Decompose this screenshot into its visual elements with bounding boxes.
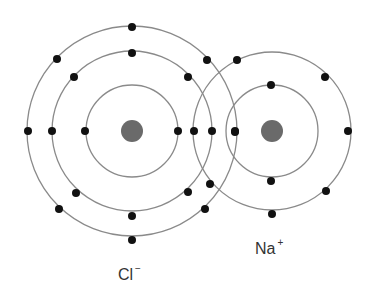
ionic-bond-diagram xyxy=(0,0,376,286)
cl-electron xyxy=(128,212,136,220)
cl-electron xyxy=(48,127,56,135)
cl-electron xyxy=(128,236,136,244)
cl-electron xyxy=(53,55,61,63)
cl-electron xyxy=(55,205,63,213)
cl-electron xyxy=(174,127,182,135)
na-electron xyxy=(190,127,198,135)
chloride-charge: − xyxy=(135,263,141,274)
na-nucleus xyxy=(261,120,283,142)
na-electron xyxy=(231,128,239,136)
na-electron xyxy=(267,81,275,89)
na-electron xyxy=(268,210,276,218)
na-electron xyxy=(267,177,275,185)
na-electron xyxy=(233,56,241,64)
cl-electron xyxy=(203,56,211,64)
chloride-symbol: Cl xyxy=(118,266,133,283)
cl-electron xyxy=(128,49,136,57)
cl-electron xyxy=(128,23,136,31)
sodium-ion-label: Na+ xyxy=(255,240,283,257)
na-electron xyxy=(206,180,214,188)
na-electron xyxy=(322,187,330,195)
cl-electron xyxy=(201,205,209,213)
cl-electron xyxy=(208,127,216,135)
na-electron xyxy=(344,127,352,135)
cl-electron xyxy=(72,189,80,197)
cl-electron xyxy=(184,188,192,196)
sodium-symbol: Na xyxy=(255,240,275,257)
cl-electron xyxy=(184,73,192,81)
sodium-charge: + xyxy=(277,237,283,248)
na-electron xyxy=(321,73,329,81)
cl-electron xyxy=(81,127,89,135)
cl-electron xyxy=(24,127,32,135)
cl-nucleus xyxy=(121,120,143,142)
cl-electron xyxy=(70,73,78,81)
chloride-ion-label: Cl− xyxy=(118,266,141,283)
